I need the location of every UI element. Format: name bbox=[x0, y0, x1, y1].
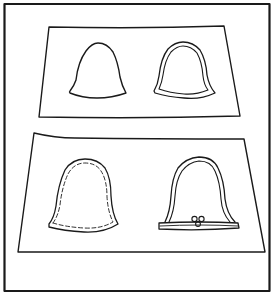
plain-bell-outline bbox=[70, 43, 127, 98]
illustration-canvas bbox=[0, 0, 275, 296]
bound-bell-with-clasp bbox=[159, 157, 239, 230]
stitched-bell bbox=[49, 159, 118, 232]
bottom-sheet bbox=[18, 133, 265, 252]
outer-frame bbox=[5, 4, 270, 291]
double-outlined-bell bbox=[154, 42, 215, 98]
top-sheet bbox=[39, 26, 240, 118]
